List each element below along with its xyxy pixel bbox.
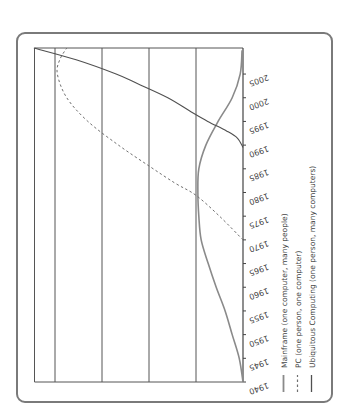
x-tick-label: 1965: [248, 262, 270, 277]
x-tick-label: 1980: [248, 191, 270, 206]
series-line-1: [57, 48, 243, 240]
chart-gridlines: [35, 48, 244, 382]
x-tick-label: 2000: [248, 96, 270, 111]
legend-label: PC (one person, one computer): [294, 251, 303, 368]
x-tick-label: 1990: [248, 144, 270, 159]
chart-series: [34, 48, 243, 382]
x-tick-label: 1940: [248, 381, 270, 396]
x-tick-label: 1970: [248, 239, 270, 254]
series-line-0: [198, 50, 243, 382]
x-tick-label: 1995: [248, 120, 270, 135]
x-tick-label: 1960: [248, 286, 270, 301]
x-tick-label: 1955: [248, 310, 270, 325]
x-tick-label: 1950: [248, 333, 270, 348]
rotated-line-chart: 1940194519501955196019651970197519801985…: [0, 0, 345, 418]
chart-legend: Mainframe (one computer, many people)PC …: [280, 166, 317, 392]
x-tick-label: 1975: [248, 215, 270, 230]
year-axis: 1940194519501955196019651970197519801985…: [243, 48, 270, 396]
plot-frame: [35, 48, 244, 382]
legend-label: Ubiquitous Computing (one person, many c…: [308, 166, 317, 368]
x-tick-label: 2005: [248, 73, 270, 88]
x-tick-label: 1985: [248, 167, 270, 182]
x-tick-label: 1945: [248, 357, 270, 372]
legend-label: Mainframe (one computer, many people): [280, 213, 289, 368]
